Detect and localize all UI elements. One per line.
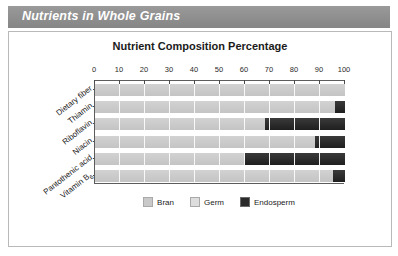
- bar-gridline: [244, 84, 245, 96]
- bar-gridline: [319, 118, 320, 130]
- bar-gridline: [269, 153, 270, 165]
- banner-title: Nutrients in Whole Grains: [22, 9, 181, 23]
- gridline: [319, 81, 320, 183]
- bar-gridline: [244, 170, 245, 182]
- bar-gridline: [144, 170, 145, 182]
- bar-gridline: [269, 84, 270, 96]
- chart-container: Nutrient Composition Percentage 01020304…: [8, 31, 392, 247]
- bar-row: [95, 101, 344, 113]
- gridline: [144, 81, 145, 183]
- bar-gridline: [194, 84, 195, 96]
- bar-gridline: [219, 101, 220, 113]
- bar-gridline: [219, 84, 220, 96]
- bar-segment-endo: [335, 101, 345, 113]
- bar-gridline: [294, 153, 295, 165]
- gridline: [244, 81, 245, 183]
- bar-gridline: [219, 136, 220, 148]
- bar-gridline: [294, 170, 295, 182]
- bar-segment-bran: [95, 118, 265, 130]
- bar-gridline: [119, 136, 120, 148]
- gridline: [269, 81, 270, 183]
- bar-gridline: [269, 118, 270, 130]
- gridline: [219, 81, 220, 183]
- bar-gridline: [144, 101, 145, 113]
- legend-item[interactable]: Germ: [190, 197, 224, 207]
- legend-label: Bran: [157, 198, 174, 207]
- bar-gridline: [244, 136, 245, 148]
- bar-segment-bran: [95, 84, 345, 96]
- chart-legend: BranGermEndosperm: [94, 195, 344, 209]
- bar-segment-endo: [245, 153, 345, 165]
- bar-gridline: [319, 101, 320, 113]
- bar-row: [95, 153, 344, 165]
- bar-gridline: [219, 118, 220, 130]
- x-axis-ticks: 0102030405060708090100: [94, 65, 344, 78]
- bar-gridline: [119, 153, 120, 165]
- bar-gridline: [169, 153, 170, 165]
- bar-segment-bran: [95, 153, 245, 165]
- bar-gridline: [269, 136, 270, 148]
- bar-gridline: [244, 101, 245, 113]
- gridline: [119, 81, 120, 183]
- gridline: [344, 81, 345, 183]
- bar-gridline: [294, 84, 295, 96]
- bar-gridline: [219, 153, 220, 165]
- bar-gridline: [194, 153, 195, 165]
- plot-area: [94, 80, 344, 184]
- bar-gridline: [319, 136, 320, 148]
- bar-gridline: [144, 153, 145, 165]
- x-tick-label: 80: [290, 65, 298, 74]
- bar-gridline: [319, 84, 320, 96]
- chart-title: Nutrient Composition Percentage: [9, 40, 391, 52]
- y-axis-category-labels: Dietary fiberThiaminRiboflavinNiacinPant…: [9, 72, 95, 192]
- bar-gridline: [269, 170, 270, 182]
- legend-swatch-germ: [190, 197, 200, 207]
- bar-gridline: [169, 136, 170, 148]
- x-tick-label: 60: [240, 65, 248, 74]
- gridline: [194, 81, 195, 183]
- bar-gridline: [144, 84, 145, 96]
- x-tick-label: 100: [338, 65, 351, 74]
- bar-segment-bran: [95, 101, 335, 113]
- bar-segment-bran: [95, 170, 333, 182]
- bar-gridline: [319, 170, 320, 182]
- bar-gridline: [169, 170, 170, 182]
- bar-row: [95, 170, 344, 182]
- bar-gridline: [144, 118, 145, 130]
- bar-row: [95, 136, 344, 148]
- bar-gridline: [244, 153, 245, 165]
- bar-gridline: [294, 136, 295, 148]
- bar-gridline: [144, 136, 145, 148]
- bar-gridline: [194, 170, 195, 182]
- x-tick-label: 50: [215, 65, 223, 74]
- x-tick-label: 90: [315, 65, 323, 74]
- bar-gridline: [119, 84, 120, 96]
- bar-gridline: [119, 118, 120, 130]
- x-tick-label: 30: [165, 65, 173, 74]
- legend-label: Germ: [204, 198, 224, 207]
- bar-segment-endo: [333, 170, 346, 182]
- bar-gridline: [194, 136, 195, 148]
- bar-segment-bran: [95, 136, 315, 148]
- bar-gridline: [169, 118, 170, 130]
- bar-row: [95, 118, 344, 130]
- slide: Nutrients in Whole Grains Nutrient Compo…: [0, 0, 398, 256]
- bar-gridline: [294, 118, 295, 130]
- legend-item[interactable]: Endosperm: [240, 197, 295, 207]
- bar-gridline: [194, 101, 195, 113]
- gridline: [169, 81, 170, 183]
- legend-item[interactable]: Bran: [143, 197, 174, 207]
- bar-gridline: [169, 84, 170, 96]
- bar-gridline: [119, 101, 120, 113]
- bar-gridline: [219, 170, 220, 182]
- bar-row: [95, 84, 344, 96]
- bar-gridline: [194, 118, 195, 130]
- x-tick-label: 40: [190, 65, 198, 74]
- gridline: [294, 81, 295, 183]
- slide-banner: Nutrients in Whole Grains: [8, 6, 390, 28]
- legend-label: Endosperm: [254, 198, 295, 207]
- legend-swatch-bran: [143, 197, 153, 207]
- x-tick-label: 20: [140, 65, 148, 74]
- bar-gridline: [319, 153, 320, 165]
- bar-segment-endo: [265, 118, 345, 130]
